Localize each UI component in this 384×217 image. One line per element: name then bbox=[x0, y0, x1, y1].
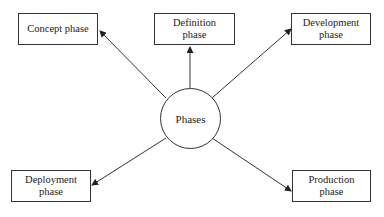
center-node-phases: Phases bbox=[160, 88, 221, 149]
node-concept: Concept phase bbox=[18, 13, 98, 45]
node-deployment: Deployment phase bbox=[11, 170, 91, 202]
node-definition: Definition phase bbox=[154, 13, 235, 45]
arrow-to-deployment bbox=[92, 138, 166, 185]
center-node-label: Phases bbox=[176, 113, 206, 125]
node-development: Development phase bbox=[291, 13, 371, 45]
node-definition-label: Definition phase bbox=[169, 17, 220, 41]
node-production: Production phase bbox=[292, 170, 371, 202]
node-concept-label: Concept phase bbox=[27, 23, 89, 35]
node-deployment-label: Deployment phase bbox=[20, 174, 82, 198]
arrow-to-production bbox=[212, 138, 291, 191]
node-development-label: Development phase bbox=[300, 17, 362, 41]
node-production-label: Production phase bbox=[303, 174, 360, 198]
